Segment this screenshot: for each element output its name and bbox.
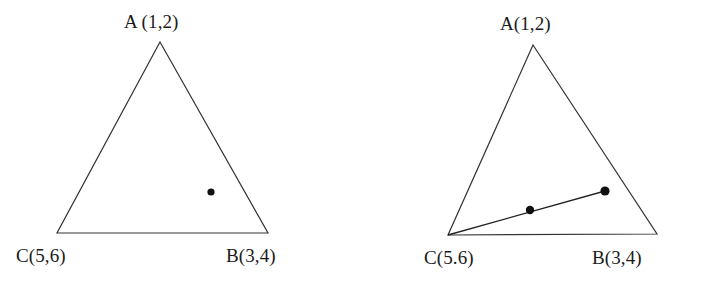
triangle-right-outline	[448, 45, 657, 235]
triangle-left-vertex-label-c: C(5,6)	[16, 246, 66, 265]
figure-canvas	[0, 0, 719, 286]
triangle-left-interior-point-1	[207, 188, 214, 195]
triangle-left-panel	[57, 42, 268, 233]
triangle-right-interior-point-2	[600, 186, 609, 195]
triangle-left-vertex-label-a: A (1,2)	[124, 12, 179, 31]
triangle-right-path-c-to-point2	[448, 191, 605, 235]
triangle-right-vertex-label-b: B(3,4)	[592, 248, 642, 267]
triangle-right-panel	[448, 45, 657, 235]
triangle-right-interior-point-1	[526, 206, 534, 214]
triangle-left-outline	[57, 42, 268, 233]
triangle-right-vertex-label-a: A(1,2)	[500, 14, 551, 33]
triangle-right-vertex-label-c: C(5.6)	[424, 248, 474, 267]
triangle-left-vertex-label-b: B(3,4)	[226, 246, 276, 265]
